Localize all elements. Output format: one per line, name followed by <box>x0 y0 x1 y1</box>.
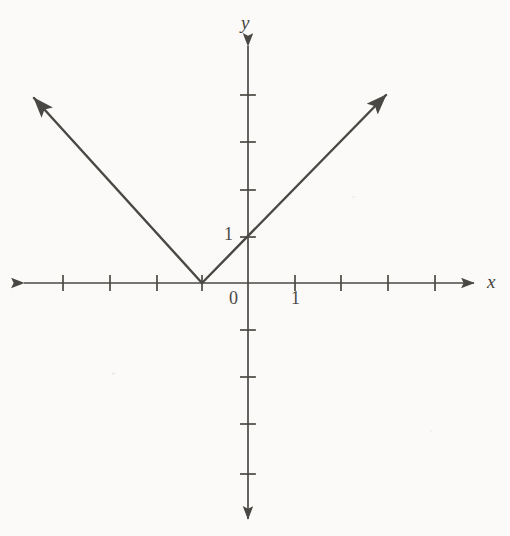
curve-right-branch <box>202 95 386 283</box>
y-axis-label: y <box>241 12 249 34</box>
absolute-value-graph-figure: y x 0 1 1 <box>0 0 510 536</box>
curve-left-branch <box>34 98 202 283</box>
x-axis <box>24 275 474 291</box>
origin-label: 0 <box>229 288 238 309</box>
coordinate-plane-svg <box>0 0 510 536</box>
x-axis-label: x <box>487 271 495 293</box>
function-curve-absolute-value <box>34 95 386 283</box>
y-tick-label-1: 1 <box>224 224 233 245</box>
x-tick-label-1: 1 <box>291 288 300 309</box>
